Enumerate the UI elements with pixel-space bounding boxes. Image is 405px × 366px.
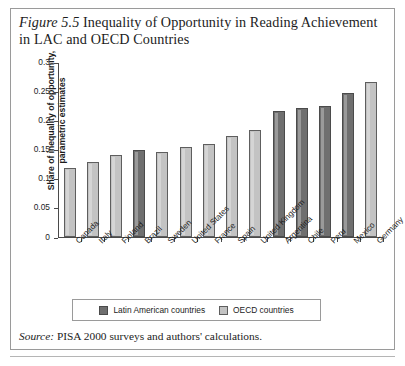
bar-highlight (367, 84, 370, 235)
x-axis-label-italy: Italy (97, 239, 103, 245)
page-bottom-rule (10, 356, 395, 357)
bar-united-kingdom (249, 130, 261, 237)
x-axis-label-germany: Germany (375, 239, 381, 245)
figure-number: Figure 5.5 (19, 14, 79, 30)
y-axis-tick-label: 0.2 (38, 115, 50, 125)
x-axis-label-canada: Canada (74, 239, 80, 245)
chart-legend: Latin American countries OECD countries (72, 299, 321, 321)
figure-page: Figure 5.5 Inequality of Opportunity in … (0, 0, 405, 366)
figure-title: Figure 5.5 Inequality of Opportunity in … (19, 14, 379, 47)
y-axis-tick: 0.25 (54, 92, 58, 93)
y-axis-tick-label: 0.25 (34, 86, 50, 96)
legend-item-oecd: OECD countries (219, 305, 294, 315)
bar-highlight (251, 132, 254, 235)
y-axis-tick-label: 0.1 (38, 173, 50, 183)
x-axis-label-united-states: United States (190, 239, 196, 245)
bar-highlight (112, 157, 115, 235)
x-axis-label-finland: Finland (120, 239, 126, 245)
y-axis-tick: 0.1 (54, 179, 58, 180)
legend-swatch-oecd-icon (219, 306, 228, 315)
legend-label-oecd: OECD countries (233, 305, 294, 315)
x-axis-label-france: France (213, 239, 219, 245)
bar-highlight (66, 170, 69, 235)
x-axis-label-mexico: Mexico (352, 239, 358, 245)
y-axis-line (58, 63, 59, 238)
x-axis-label-spain: Spain (236, 239, 242, 245)
source-text: PISA 2000 surveys and authors' calculati… (57, 330, 262, 342)
y-axis-tick: 0.2 (54, 121, 58, 122)
legend-item-lac: Latin American countries (99, 305, 205, 315)
bar-highlight (158, 154, 161, 235)
source-label: Source: (19, 330, 54, 342)
bar-highlight (321, 108, 324, 235)
x-axis-label-brazil: Brazil (143, 239, 149, 245)
y-axis-tick-label: 0.15 (34, 144, 50, 154)
chart-container: Share of inequality of opportunity, para… (14, 58, 389, 290)
bar-sweden (156, 152, 168, 237)
bar-germany (365, 82, 377, 237)
y-axis-tick: 0.05 (54, 208, 58, 209)
source-note: Source: PISA 2000 surveys and authors' c… (19, 330, 262, 342)
bar-finland (110, 155, 122, 237)
bar-mexico (342, 93, 354, 237)
y-axis-tick: 0 (54, 238, 58, 239)
x-axis-label-sweden: Sweden (166, 239, 172, 245)
bar-highlight (275, 113, 278, 235)
x-axis-label-united-kingdom: United Kingdom (259, 239, 265, 245)
y-axis-tick: 0.15 (54, 150, 58, 151)
y-axis-tick-label: 0 (45, 232, 50, 242)
legend-swatch-lac-icon (99, 306, 108, 315)
y-axis-tick: 0.3 (54, 63, 58, 64)
x-axis-label-chile: Chile (306, 239, 312, 245)
bar-highlight (344, 95, 347, 235)
x-axis-label-peru: Peru (329, 239, 335, 245)
y-axis-tick-label: 0.05 (34, 202, 50, 212)
bar-peru (319, 106, 331, 237)
bar-canada (64, 168, 76, 237)
legend-label-lac: Latin American countries (113, 305, 205, 315)
bar-highlight (298, 110, 301, 236)
y-axis-tick-label: 0.3 (38, 57, 50, 67)
x-axis-label-argentina: Argentina (283, 239, 289, 245)
